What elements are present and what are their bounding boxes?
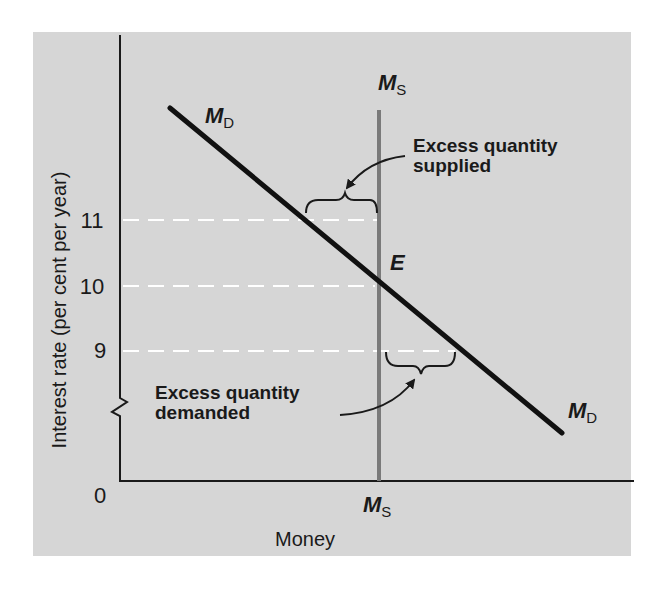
chart-panel — [33, 32, 631, 556]
annotation-excess-supplied-line1: Excess quantity — [413, 135, 558, 156]
equilibrium-label: E — [390, 250, 406, 275]
y-tick-10: 10 — [80, 274, 104, 299]
y-tick-9: 9 — [94, 338, 106, 363]
y-tick-11: 11 — [81, 208, 104, 233]
annotation-excess-supplied-line2: supplied — [413, 155, 491, 176]
origin-label: 0 — [94, 483, 106, 508]
annotation-excess-demanded-line2: demanded — [155, 402, 250, 423]
annotation-excess-demanded-line1: Excess quantity — [155, 382, 300, 403]
money-market-chart: 11 10 9 0 Interest rate (per cent per ye… — [0, 0, 661, 590]
y-axis-title: Interest rate (per cent per year) — [48, 172, 70, 449]
x-axis-title: Money — [275, 528, 335, 550]
